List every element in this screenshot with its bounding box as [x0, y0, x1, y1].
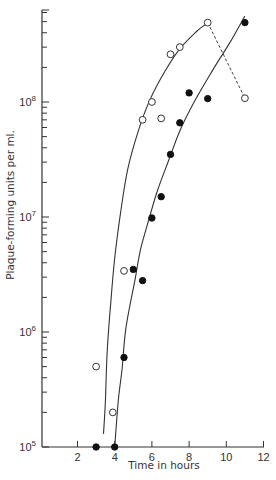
- open-circle-point: [139, 116, 146, 123]
- filled-circle-point: [149, 215, 155, 221]
- filled-circle-point: [93, 444, 99, 450]
- open-circle-point: [149, 99, 156, 106]
- filled-circle-point: [167, 151, 173, 157]
- fitted-curve: [115, 16, 245, 447]
- y-axis-ticks: 105106107108: [19, 10, 49, 453]
- filled-circle-point: [177, 120, 183, 126]
- filled-circle-point: [205, 95, 211, 101]
- open-circle-point: [93, 363, 100, 370]
- fitted-curves: [104, 16, 245, 447]
- x-tick-label: 4: [112, 451, 118, 463]
- filled-circle-point: [121, 354, 127, 360]
- x-tick-label: 12: [257, 451, 269, 463]
- y-tick-label: 108: [19, 94, 36, 108]
- data-points: [93, 19, 249, 450]
- y-tick-label: 105: [19, 439, 36, 453]
- filled-circle-point: [158, 194, 164, 200]
- y-axis-title: Plaque-forming units per ml.: [4, 130, 16, 280]
- filled-circle-point: [242, 19, 248, 25]
- open-circle-point: [204, 19, 211, 26]
- chart: 105106107108 24681012 Time in hours Plaq…: [0, 0, 276, 480]
- open-circle-point: [176, 44, 183, 51]
- filled-circle-point: [139, 277, 145, 283]
- open-circle-point: [158, 115, 165, 122]
- open-circle-point: [167, 51, 174, 58]
- y-tick-label: 106: [19, 324, 36, 338]
- open-circle-point: [242, 95, 249, 102]
- fitted-curve: [104, 24, 206, 434]
- x-axis-title: Time in hours: [127, 459, 199, 471]
- dashed-connector-line: [208, 23, 245, 99]
- filled-circle-point: [186, 90, 192, 96]
- x-tick-label: 2: [74, 451, 80, 463]
- y-tick-label: 107: [19, 209, 36, 223]
- x-tick-label: 10: [220, 451, 232, 463]
- filled-circle-point: [112, 444, 118, 450]
- filled-circle-point: [130, 266, 136, 272]
- open-circle-point: [121, 268, 128, 275]
- open-circle-point: [109, 409, 116, 416]
